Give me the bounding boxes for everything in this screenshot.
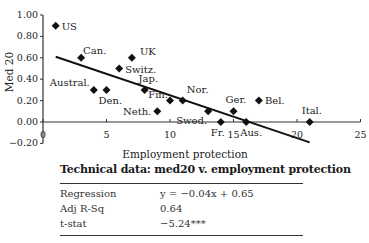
row-value: 0.64: [160, 203, 182, 214]
y-tick-label: 0.60: [17, 52, 38, 63]
technical-data-title: Technical data: med20 v. employment prot…: [60, 163, 351, 176]
data-point: Fr.: [211, 118, 225, 138]
x-tick-label: 25: [354, 129, 366, 140]
data-point: Austral.: [49, 77, 98, 94]
point-label: Neth.: [123, 106, 151, 117]
table-top-rule: [60, 183, 303, 184]
data-point: UK: [128, 46, 156, 62]
x-tick-label: 15: [227, 129, 239, 140]
data-point: Ital.: [302, 105, 322, 126]
row-value: y = −0.04x + 0.65: [160, 188, 254, 199]
y-tick-label: −0.20: [9, 137, 38, 148]
data-points: USCan.UKSwitz.Austral.Den.Jap.Neth.Fin.N…: [49, 21, 322, 138]
data-point: Fin.: [148, 89, 174, 105]
point-label: Ger.: [226, 94, 247, 105]
diamond-marker-icon: [128, 54, 136, 62]
point-label: Jap.: [138, 73, 159, 84]
y-tick-label: 1.00: [17, 9, 38, 20]
row-key: Regression: [60, 188, 116, 199]
row-value: −5.24***: [160, 218, 206, 229]
data-point: Can.: [77, 45, 106, 62]
point-label: US: [62, 21, 77, 32]
x-tick-label: 10: [164, 129, 176, 140]
diamond-marker-icon: [103, 86, 111, 94]
x-tick-label: 0: [40, 129, 46, 140]
row-key: t-stat: [60, 218, 87, 229]
row-key: Adj R-Sq: [60, 203, 104, 214]
table-bottom-rule: [60, 235, 303, 236]
data-point: Neth.: [123, 106, 161, 117]
point-label: Aus.: [239, 127, 262, 138]
data-point: Ger.: [226, 94, 247, 115]
scatter-chart: 1.000.800.600.400.200.00−0.20 0510152025…: [0, 0, 369, 165]
diamond-marker-icon: [230, 107, 238, 115]
point-label: Can.: [83, 45, 106, 56]
data-point: US: [52, 21, 77, 32]
data-point: Swed.: [176, 107, 212, 126]
diamond-marker-icon: [217, 118, 225, 126]
point-label: Bel.: [265, 95, 285, 106]
point-label: Fr.: [211, 127, 225, 138]
point-label: Austral.: [49, 77, 90, 88]
point-label: Den.: [99, 95, 123, 106]
point-label: UK: [140, 46, 156, 57]
y-tick-label: 0.00: [17, 116, 38, 127]
data-point: Aus.: [239, 118, 262, 138]
x-axis-title: Employment protection: [122, 148, 248, 160]
point-label: Nor.: [187, 84, 209, 95]
y-tick-label: 0.80: [17, 30, 38, 41]
point-label: Fin.: [148, 89, 168, 100]
point-label: Swed.: [176, 115, 207, 126]
y-tick-label: 0.40: [17, 73, 38, 84]
data-point: Nor.: [179, 84, 209, 105]
point-label: Ital.: [302, 105, 322, 116]
diamond-marker-icon: [153, 107, 161, 115]
diamond-marker-icon: [255, 97, 263, 105]
y-axis-title: Med 20: [3, 52, 15, 92]
diamond-marker-icon: [90, 86, 98, 94]
x-tick-label: 5: [103, 129, 109, 140]
data-point: Bel.: [255, 95, 285, 106]
diamond-marker-icon: [52, 22, 60, 30]
diamond-marker-icon: [306, 118, 314, 126]
diamond-marker-icon: [115, 65, 123, 73]
y-tick-label: 0.20: [17, 95, 38, 106]
data-point: Den.: [99, 86, 123, 106]
